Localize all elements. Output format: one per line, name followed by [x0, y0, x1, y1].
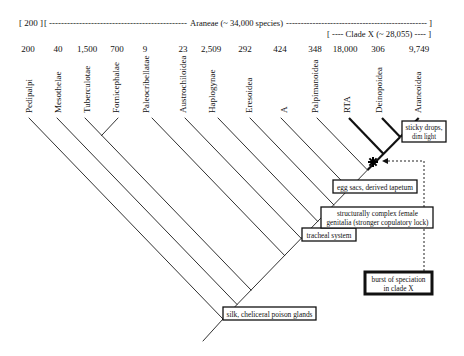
character-box-sticky-drops: sticky drops, dim light	[402, 121, 446, 142]
branch-eresoidea	[250, 118, 334, 205]
taxon-label-deinopoidea: Deinopoidea	[374, 67, 384, 113]
species-count: 9,749	[409, 44, 430, 54]
species-count-row: 200 40 1,500 700 9 23 2,509 292 424 348 …	[21, 44, 429, 54]
header: [ 200 ] [ ------------------------------…	[19, 18, 432, 39]
araneae-left-dashes: ----------------------------------------…	[49, 18, 187, 28]
species-count: 200	[21, 44, 35, 54]
character-text: silk, cheliceral poison glands	[227, 309, 314, 319]
branch-haplogynae	[218, 118, 318, 222]
speciation-annotation-box: burst of speciation in clade X	[365, 272, 432, 294]
root-branch	[203, 319, 223, 341]
species-count: 292	[238, 44, 252, 54]
annotation-text: in clade X	[384, 283, 415, 293]
araneae-close-bracket: ]	[429, 18, 432, 28]
branch-deinopoidea	[382, 118, 400, 137]
character-box-tracheal: tracheal system	[302, 228, 356, 241]
taxon-label-araneoidea: Araneoidea	[413, 72, 423, 113]
taxon-label-paleocribellatae: Paleocribellatae	[141, 56, 151, 113]
branch-a	[281, 118, 350, 189]
asterisk-icon	[368, 157, 378, 167]
taxon-label-fornicephalae: Fornicephalae	[111, 62, 121, 113]
species-count: 1,500	[77, 44, 98, 54]
branch-tuberculotae	[85, 118, 251, 290]
araneae-right-dashes: ----------------------------------------…	[286, 18, 427, 28]
species-count: 2,509	[201, 44, 222, 54]
species-count: 306	[371, 44, 385, 54]
species-count: 23	[179, 44, 189, 54]
taxon-label-mesothelae: Mesothelae	[53, 72, 63, 113]
branch-rta	[349, 118, 384, 154]
species-count: 9	[143, 44, 148, 54]
branch-fornicephalae	[102, 118, 119, 136]
species-count: 348	[308, 44, 322, 54]
taxon-labels: Pedipalpi Mesothelae Tuberculotae Fornic…	[24, 56, 423, 114]
character-box-silk: silk, cheliceral poison glands	[223, 307, 316, 320]
taxon-label-rta: RTA	[342, 96, 352, 113]
character-box-egg-sacs: egg sacs, derived tapetum	[333, 180, 417, 193]
clade-x-bracket: [ ---- Clade X (~ 28,055) ---- ]	[327, 29, 431, 39]
taxon-label-eresoidea: Eresoidea	[244, 78, 254, 113]
taxon-label-pedipalpi: Pedipalpi	[24, 79, 34, 113]
species-count: 700	[110, 44, 124, 54]
branch-pedipalpi	[29, 118, 223, 319]
araneae-title: Araneae (~ 34,000 species)	[190, 18, 283, 28]
branch-austrochiloidea	[185, 118, 301, 239]
branch-paleocribellatae	[152, 118, 285, 256]
taxon-label-tuberculotae: Tuberculotae	[82, 66, 92, 113]
taxon-label-austrochiloidea: Austrochiloidea	[178, 56, 188, 114]
species-count: 18,000	[333, 44, 358, 54]
character-text: tracheal system	[307, 230, 352, 240]
taxon-label-palpimanoidea: Palpimanoidea	[310, 60, 320, 114]
species-count: 424	[273, 44, 287, 54]
arrowhead-left-icon	[382, 158, 388, 164]
character-text: dim light	[412, 131, 436, 141]
taxon-label-a: A	[279, 106, 289, 113]
character-box-genitalia: structurally complex female genitalia (s…	[321, 207, 433, 228]
branch-palpimanoidea	[317, 118, 368, 170]
taxon-label-haplogynae: Haplogynae	[207, 70, 217, 113]
species-count: 40	[54, 44, 64, 54]
outgroup-species-bracket: [ 200 ]	[19, 18, 43, 28]
araneae-open-bracket: [	[44, 18, 47, 28]
character-text: genitalia (stronger copulatory lock)	[327, 217, 429, 227]
spider-phylogeny-diagram: [ 200 ] [ ------------------------------…	[0, 0, 464, 356]
branch-mesothelae	[57, 118, 237, 305]
character-text: egg sacs, derived tapetum	[337, 182, 413, 192]
